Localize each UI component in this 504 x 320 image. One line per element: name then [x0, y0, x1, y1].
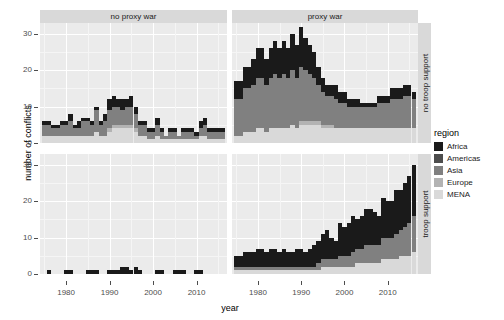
- x-tick-mark: [66, 281, 67, 285]
- bar-segment: [94, 270, 98, 274]
- strip-no-troop-support: no troop support: [418, 23, 431, 143]
- legend-label: Americas: [447, 154, 480, 163]
- legend-title: region: [434, 128, 504, 138]
- bar-segment: [412, 92, 416, 99]
- x-tick-mark: [301, 281, 302, 285]
- x-tick-mark: [388, 281, 389, 285]
- y-tick-mark: [34, 201, 38, 202]
- y-tick-mark: [34, 107, 38, 108]
- strip-no-troop-support-label: no troop support: [420, 54, 429, 112]
- bar-segment: [220, 128, 224, 132]
- gridline-x: [197, 23, 198, 143]
- y-tick-label: 20: [8, 65, 32, 74]
- y-tick-mark: [34, 165, 38, 166]
- gridline-y-minor: [40, 88, 227, 89]
- bar-segment: [160, 128, 164, 132]
- bar-segment: [203, 118, 207, 125]
- x-tick-label: 1990: [292, 288, 310, 297]
- gridline-y: [40, 70, 227, 71]
- strip-proxy-war: proxy war: [232, 10, 418, 23]
- y-tick-mark: [34, 34, 38, 35]
- bar-segment: [160, 270, 164, 274]
- bar-segment: [412, 128, 416, 143]
- y-tick-label: 10: [8, 102, 32, 111]
- legend-item: Europe: [434, 177, 504, 188]
- x-tick-label: 2000: [144, 288, 162, 297]
- y-tick-mark: [34, 143, 38, 144]
- y-tick-label: 0: [8, 269, 32, 278]
- gridline-x: [153, 23, 154, 143]
- bar-segment: [47, 270, 51, 274]
- gridline-y: [40, 238, 227, 239]
- panel-no-proxy-war-no-troop-support: [40, 23, 227, 143]
- bar-segment: [173, 128, 177, 132]
- gridline-x-minor: [218, 154, 219, 274]
- bar-segment: [220, 132, 224, 139]
- gridline-x: [153, 154, 154, 274]
- bar-segment: [199, 270, 203, 274]
- strip-troop-support-label: troop support: [420, 190, 429, 237]
- legend-item: MENA: [434, 189, 504, 200]
- legend: region AfricaAmericasAsiaEuropeMENA: [434, 128, 504, 201]
- bar-segment: [412, 99, 416, 128]
- strip-no-proxy-war: no proxy war: [40, 10, 227, 23]
- x-tick-label: 1980: [57, 288, 75, 297]
- gridline-y: [40, 201, 227, 202]
- legend-swatch: [434, 142, 443, 151]
- gridline-y-minor: [40, 52, 227, 53]
- y-tick-label: 30: [8, 29, 32, 38]
- x-tick-label: 1990: [101, 288, 119, 297]
- legend-swatch: [434, 166, 443, 175]
- gridline-x: [197, 154, 198, 274]
- bar-segment: [412, 165, 416, 216]
- gridline-x-minor: [44, 154, 45, 274]
- bar-segment: [138, 270, 142, 274]
- bar-segment: [412, 252, 416, 274]
- y-tick-label: 10: [8, 233, 32, 242]
- bar-segment: [129, 96, 133, 107]
- y-tick-label: 30: [8, 160, 32, 169]
- gridline-y-minor: [232, 183, 418, 184]
- gridline-y-minor: [40, 256, 227, 257]
- panel-proxy-war-no-troop-support: [232, 23, 418, 143]
- x-axis-title: year: [40, 303, 420, 313]
- x-tick-mark: [110, 281, 111, 285]
- x-tick-mark: [153, 281, 154, 285]
- gridline-x: [110, 154, 111, 274]
- y-tick-mark: [34, 274, 38, 275]
- bar-segment: [134, 107, 138, 114]
- panel-no-proxy-war-troop-support: [40, 154, 227, 274]
- gridline-x-minor: [218, 23, 219, 143]
- bar-segment: [68, 270, 72, 274]
- bar-segment: [181, 270, 185, 274]
- x-tick-mark: [344, 281, 345, 285]
- gridline-x: [66, 154, 67, 274]
- legend-swatch: [434, 178, 443, 187]
- chart-root: number of conflicts year no proxy war pr…: [0, 0, 504, 320]
- gridline-x-minor: [131, 154, 132, 274]
- legend-label: MENA: [447, 190, 470, 199]
- x-tick-mark: [197, 281, 198, 285]
- x-tick-label: 2010: [188, 288, 206, 297]
- gridline-y: [232, 34, 418, 35]
- gridline-x-minor: [175, 154, 176, 274]
- legend-swatch: [434, 190, 443, 199]
- y-tick-label: 0: [8, 138, 32, 147]
- bar-segment: [155, 118, 159, 125]
- gridline-x-minor: [175, 23, 176, 143]
- bar-segment: [94, 107, 98, 111]
- x-tick-label: 2000: [336, 288, 354, 297]
- gridline-y: [40, 34, 227, 35]
- gridline-y: [40, 165, 227, 166]
- legend-label: Europe: [447, 178, 473, 187]
- bar-segment: [142, 121, 146, 125]
- gridline-y-minor: [40, 183, 227, 184]
- legend-label: Asia: [447, 166, 463, 175]
- gridline-y-minor: [40, 219, 227, 220]
- legend-item: Americas: [434, 153, 504, 164]
- x-tick-mark: [258, 281, 259, 285]
- y-tick-label: 20: [8, 196, 32, 205]
- gridline-y: [232, 165, 418, 166]
- strip-troop-support: troop support: [418, 154, 431, 274]
- legend-item: Asia: [434, 165, 504, 176]
